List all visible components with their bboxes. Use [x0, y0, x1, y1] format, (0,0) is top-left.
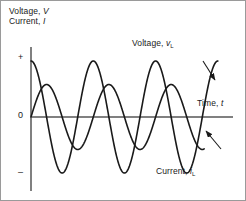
waveform-figure: Voltage, V Current, I + 0 – Time, t Volt…: [0, 0, 246, 201]
plot-area: [1, 1, 246, 201]
current-annotation-arrow: [206, 131, 221, 149]
voltage-annotation-arrow: [203, 61, 215, 80]
